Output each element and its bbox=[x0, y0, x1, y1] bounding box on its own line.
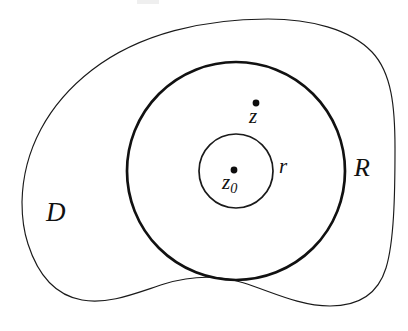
figure-canvas: D R r z z0 bbox=[0, 0, 408, 331]
label-domain-D: D bbox=[46, 199, 66, 226]
diagram-svg bbox=[0, 0, 408, 331]
label-center-subscript: 0 bbox=[230, 180, 237, 196]
domain-region-outline bbox=[22, 19, 395, 306]
label-outer-radius-R: R bbox=[354, 155, 370, 181]
label-center-base: z bbox=[222, 170, 230, 194]
label-center-z0: z0 bbox=[222, 172, 237, 195]
label-point-z: z bbox=[249, 106, 257, 127]
label-inner-radius-r: r bbox=[279, 156, 287, 177]
